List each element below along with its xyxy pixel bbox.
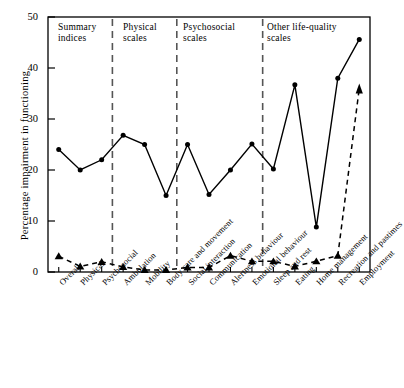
series-upper-point: [271, 166, 276, 171]
series-upper-point: [249, 141, 254, 146]
series-upper-point: [99, 157, 104, 162]
series-upper-point: [142, 142, 147, 147]
series-upper-point: [185, 142, 190, 147]
series-upper-point: [314, 225, 319, 230]
series-upper-point: [78, 168, 83, 173]
series-upper-point: [357, 37, 362, 42]
series-upper-point: [56, 147, 61, 152]
series-upper-point: [207, 192, 212, 197]
series-upper-point: [228, 168, 233, 173]
series-upper-line: [59, 39, 360, 227]
series-upper-point: [292, 82, 297, 87]
series-lower-point: [312, 257, 320, 264]
series-upper-point: [121, 133, 126, 138]
series-lower-arrow-icon: [356, 83, 363, 93]
series-lower-point: [55, 252, 63, 259]
series-upper-point: [335, 76, 340, 81]
series-upper-point: [164, 193, 169, 198]
